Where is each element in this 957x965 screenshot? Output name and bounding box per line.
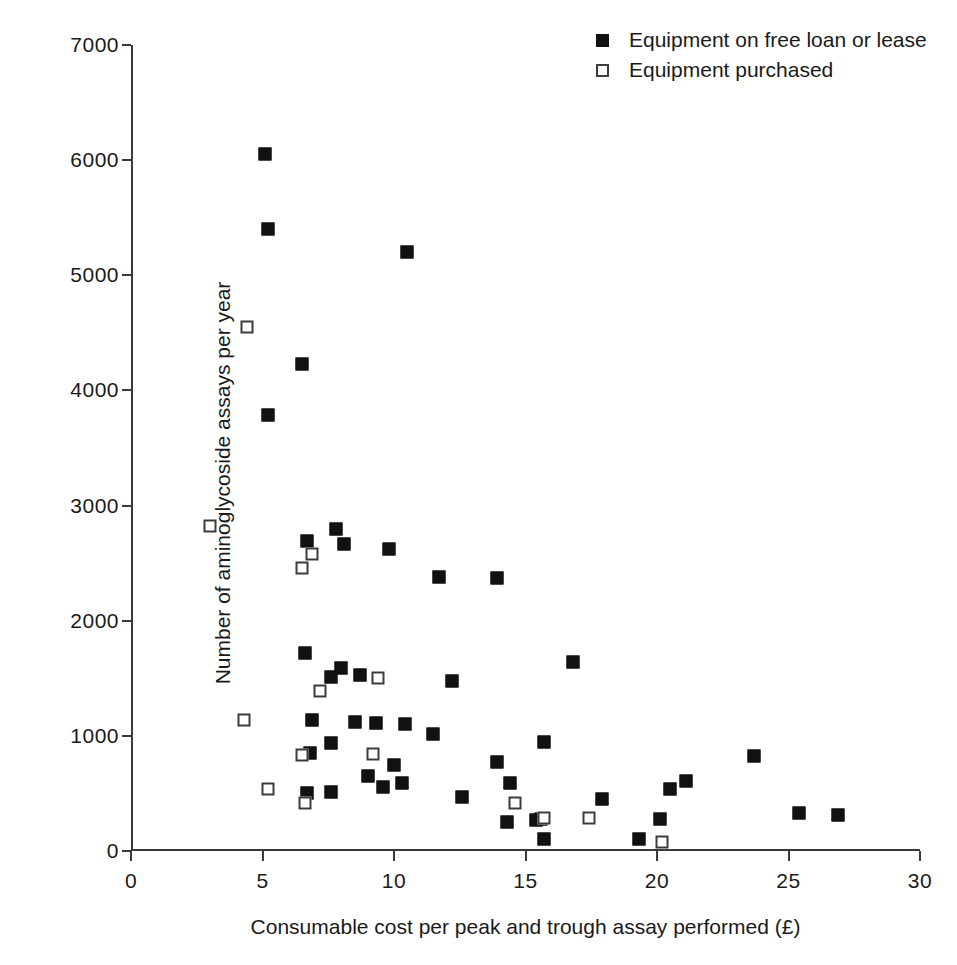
data-point-open-square (298, 797, 311, 810)
data-point-filled-square (306, 713, 319, 726)
data-point-open-square (261, 782, 274, 795)
x-axis-tick (262, 851, 264, 861)
legend-item: Equipment purchased (596, 55, 927, 85)
data-point-filled-square (653, 813, 666, 826)
data-point-filled-square (298, 646, 311, 659)
data-point-filled-square (456, 790, 469, 803)
data-point-filled-square (388, 758, 401, 771)
x-axis-tick (656, 851, 658, 861)
scatter-plot-figure: Number of aminoglycoside assays per year… (0, 0, 957, 965)
y-axis-tick-label: 1000 (70, 724, 119, 748)
x-axis-tick-label: 30 (908, 869, 932, 893)
y-axis-tick (122, 505, 131, 507)
data-point-open-square (240, 321, 253, 334)
data-point-open-square (203, 520, 216, 533)
y-axis-tick-label: 3000 (70, 494, 119, 518)
x-axis-tick (130, 851, 132, 861)
legend-item: Equipment on free loan or lease (596, 25, 927, 55)
data-point-filled-square (338, 537, 351, 550)
data-point-open-square (366, 747, 379, 760)
y-axis-tick (122, 159, 131, 161)
x-axis-tick-label: 20 (645, 869, 669, 893)
y-axis-line (131, 45, 133, 851)
data-point-filled-square (566, 656, 579, 669)
data-point-filled-square (259, 148, 272, 161)
y-axis-tick (122, 389, 131, 391)
x-axis-tick-label: 5 (256, 869, 268, 893)
x-axis-tick-label: 0 (125, 869, 137, 893)
data-point-filled-square (664, 782, 677, 795)
data-point-filled-square (295, 357, 308, 370)
data-point-filled-square (377, 781, 390, 794)
legend: Equipment on free loan or leaseEquipment… (596, 25, 927, 85)
data-point-filled-square (595, 792, 608, 805)
y-axis-tick-label: 0 (107, 839, 119, 863)
data-point-open-square (295, 561, 308, 574)
data-point-filled-square (832, 809, 845, 822)
data-point-open-square (295, 748, 308, 761)
data-point-filled-square (632, 832, 645, 845)
data-point-filled-square (395, 777, 408, 790)
y-axis-tick (122, 735, 131, 737)
data-point-filled-square (261, 408, 274, 421)
data-point-filled-square (432, 570, 445, 583)
data-point-filled-square (324, 671, 337, 684)
data-point-open-square (537, 812, 550, 825)
x-axis-title: Consumable cost per peak and trough assa… (131, 915, 920, 939)
data-point-filled-square (503, 777, 516, 790)
y-axis-tick (122, 274, 131, 276)
x-axis-tick (393, 851, 395, 861)
data-point-filled-square (490, 755, 503, 768)
data-point-open-square (582, 812, 595, 825)
y-axis-tick-label: 7000 (70, 33, 119, 57)
y-axis-tick-label: 5000 (70, 263, 119, 287)
data-point-filled-square (301, 535, 314, 548)
x-axis-tick (525, 851, 527, 861)
data-point-filled-square (348, 716, 361, 729)
data-point-filled-square (748, 750, 761, 763)
data-point-filled-square (353, 668, 366, 681)
data-point-filled-square (261, 223, 274, 236)
x-axis-tick (788, 851, 790, 861)
y-axis-tick (122, 620, 131, 622)
y-axis-tick-label: 2000 (70, 609, 119, 633)
data-point-filled-square (537, 735, 550, 748)
legend-item-label: Equipment purchased (629, 58, 833, 82)
data-point-filled-square (679, 775, 692, 788)
x-axis-tick (919, 851, 921, 861)
y-axis-tick-label: 6000 (70, 148, 119, 172)
data-point-filled-square (382, 543, 395, 556)
data-point-filled-square (501, 815, 514, 828)
filled-square-icon (596, 34, 609, 47)
data-point-filled-square (324, 737, 337, 750)
y-axis-tick (122, 44, 131, 46)
open-square-icon (596, 64, 609, 77)
data-point-open-square (306, 547, 319, 560)
x-axis-tick-label: 10 (382, 869, 406, 893)
data-point-filled-square (793, 807, 806, 820)
y-axis-tick-label: 4000 (70, 378, 119, 402)
data-point-filled-square (427, 727, 440, 740)
data-point-filled-square (401, 246, 414, 259)
data-point-filled-square (361, 769, 374, 782)
data-point-filled-square (330, 522, 343, 535)
data-point-open-square (238, 713, 251, 726)
data-point-filled-square (445, 674, 458, 687)
data-point-filled-square (490, 572, 503, 585)
data-point-open-square (314, 684, 327, 697)
data-point-filled-square (369, 717, 382, 730)
plot-area: 01000200030004000500060007000 0510152025… (131, 45, 920, 851)
data-point-filled-square (324, 786, 337, 799)
data-point-open-square (372, 672, 385, 685)
x-axis-tick-label: 25 (776, 869, 800, 893)
legend-item-label: Equipment on free loan or lease (629, 28, 927, 52)
data-point-filled-square (398, 718, 411, 731)
data-point-open-square (656, 835, 669, 848)
data-point-filled-square (537, 832, 550, 845)
data-point-open-square (508, 796, 521, 809)
x-axis-tick-label: 15 (513, 869, 537, 893)
